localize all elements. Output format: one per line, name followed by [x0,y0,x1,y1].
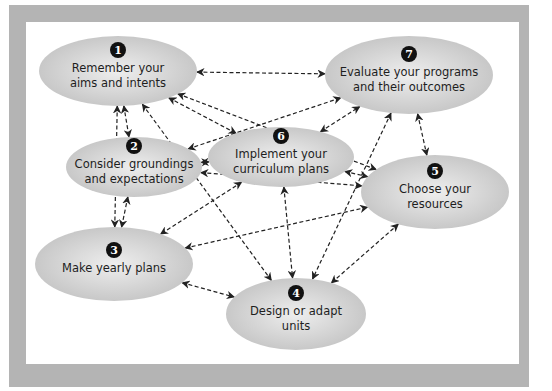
node-label-line: and expectations [84,172,183,186]
node-label-line: Evaluate your programs [340,65,478,79]
edge-7-5-arrow [418,114,427,155]
edge-3-4-arrow [182,283,234,297]
node-6: 6Implement yourcurriculum plans [208,127,354,187]
node-number: 3 [110,244,118,257]
node-number: 5 [431,165,439,178]
node-number: 1 [114,44,122,57]
edge-2-3-arrow [122,197,128,227]
node-number: 6 [277,130,285,143]
edge-1-2-arrow [124,106,129,137]
edge-5-4-arrow [331,224,398,283]
node-1: 1Remember youraims and intents [39,36,197,106]
node-label-line: Consider groundings [75,157,194,171]
node-number: 2 [130,140,138,153]
edge-1-7-arrow [197,72,325,74]
edge-6-5-arrow [345,172,368,177]
node-2: 2Consider groundingsand expectations [66,137,202,197]
node-label-line: Choose your [399,182,471,196]
node-label-line: Remember your [72,61,165,75]
nodes-layer: 1Remember youraims and intents2Consider … [35,36,509,350]
node-3: 3Make yearly plans [35,227,193,301]
node-label-line: Design or adapt [250,304,342,318]
node-label-line: Implement your [235,147,327,161]
node-label-line: aims and intents [70,76,166,90]
node-label-line: units [282,319,310,333]
node-label-line: resources [407,197,463,211]
edge-2-6-arrow [201,162,209,163]
node-5: 5Choose yourresources [361,155,509,229]
edge-6-4-arrow [284,187,293,278]
edge-3-5-arrow [185,207,367,248]
node-label-line: curriculum plans [233,162,329,176]
curriculum-planning-diagram: 1Remember youraims and intents2Consider … [0,0,552,391]
node-4: 4Design or adaptunits [226,278,366,350]
node-label-line: and their outcomes [353,80,465,94]
node-number: 7 [405,48,413,61]
node-number: 4 [292,287,300,300]
edge-6-7-arrow [320,107,359,132]
node-label-line: Make yearly plans [62,261,166,275]
node-7: 7Evaluate your programsand their outcome… [325,36,493,114]
